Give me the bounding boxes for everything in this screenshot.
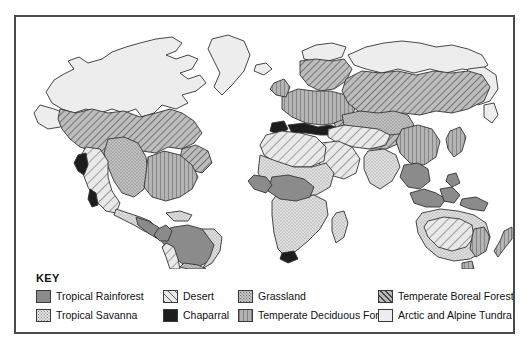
swatch-temperate-deciduous-forest-icon bbox=[238, 309, 253, 322]
legend-row-top: Tropical Rainforest Desert Grassland Tem… bbox=[16, 288, 513, 304]
swatch-chaparral-icon bbox=[163, 309, 178, 322]
biome-region-deciduous-tasmania bbox=[462, 261, 474, 269]
legend-label-grassland: Grassland bbox=[258, 290, 306, 303]
swatch-desert-icon bbox=[163, 290, 178, 303]
legend-label-desert: Desert bbox=[183, 290, 214, 303]
legend-item-grassland[interactable]: Grassland bbox=[238, 288, 306, 304]
legend-item-temperate-boreal-forest[interactable]: Temperate Boreal Forest bbox=[378, 288, 514, 304]
figure-frame: .ln{stroke:#333;stroke-width:0.9;stroke-… bbox=[14, 15, 515, 334]
world-map-svg: .ln{stroke:#333;stroke-width:0.9;stroke-… bbox=[16, 17, 513, 269]
legend-label-temperate-boreal-forest: Temperate Boreal Forest bbox=[398, 290, 514, 303]
legend-label-temperate-deciduous-forest: Temperate Deciduous Forest bbox=[258, 309, 393, 322]
legend-label-tropical-savanna: Tropical Savanna bbox=[56, 309, 137, 322]
swatch-grassland-icon bbox=[238, 290, 253, 303]
legend-label-chaparral: Chaparral bbox=[183, 309, 229, 322]
swatch-temperate-boreal-forest-icon bbox=[378, 290, 393, 303]
swatch-tropical-rainforest-icon bbox=[36, 290, 51, 303]
legend-item-desert[interactable]: Desert bbox=[163, 288, 214, 304]
world-map: .ln{stroke:#333;stroke-width:0.9;stroke-… bbox=[16, 17, 513, 269]
legend-title: KEY bbox=[36, 272, 60, 284]
legend-label-arctic-alpine-tundra: Arctic and Alpine Tundra bbox=[398, 309, 512, 322]
legend-item-temperate-deciduous-forest[interactable]: Temperate Deciduous Forest bbox=[238, 307, 393, 323]
biome-map-figure: .ln{stroke:#333;stroke-width:0.9;stroke-… bbox=[0, 0, 531, 347]
legend-item-chaparral[interactable]: Chaparral bbox=[163, 307, 229, 323]
swatch-tropical-savanna-icon bbox=[36, 309, 51, 322]
legend-item-tropical-rainforest[interactable]: Tropical Rainforest bbox=[36, 288, 144, 304]
legend-label-tropical-rainforest: Tropical Rainforest bbox=[56, 290, 144, 303]
legend-item-arctic-alpine-tundra[interactable]: Arctic and Alpine Tundra bbox=[378, 307, 512, 323]
legend-row-bottom: Tropical Savanna Chaparral Temperate Dec… bbox=[16, 307, 513, 323]
swatch-arctic-alpine-tundra-icon bbox=[378, 309, 393, 322]
legend-item-tropical-savanna[interactable]: Tropical Savanna bbox=[36, 307, 137, 323]
map-legend: KEY Tropical Rainforest Desert Grassland… bbox=[16, 269, 513, 332]
